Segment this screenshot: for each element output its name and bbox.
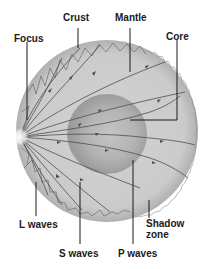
label-crust: Crust	[63, 12, 89, 23]
label-p-waves: P waves	[118, 248, 157, 259]
label-s-waves: S waves	[59, 248, 98, 259]
focus-point	[11, 128, 29, 146]
label-l-waves: L waves	[19, 219, 58, 230]
earth-seismic-diagram: Focus Crust Mantle Core Shadow zone L wa…	[0, 0, 201, 269]
label-core: Core	[166, 31, 189, 42]
label-focus: Focus	[14, 33, 43, 44]
label-shadow-zone-line1: Shadow	[146, 218, 184, 229]
label-shadow-zone: Shadow zone	[146, 218, 184, 240]
label-shadow-zone-line2: zone	[146, 229, 184, 240]
label-mantle: Mantle	[115, 12, 147, 23]
